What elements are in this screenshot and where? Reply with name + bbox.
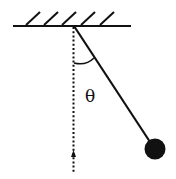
- hatch-line: [81, 12, 95, 25]
- arrow-up-icon: [71, 150, 76, 157]
- pendulum-diagram: θ: [0, 0, 176, 179]
- angle-arc: [74, 58, 94, 64]
- angle-label: θ: [85, 86, 95, 106]
- hatch-line: [26, 12, 40, 25]
- hatch-line: [44, 12, 58, 25]
- hatch-line: [62, 12, 76, 25]
- pendulum-bob: [145, 139, 166, 160]
- ceiling-support: [13, 12, 131, 26]
- hatch-line: [100, 12, 114, 25]
